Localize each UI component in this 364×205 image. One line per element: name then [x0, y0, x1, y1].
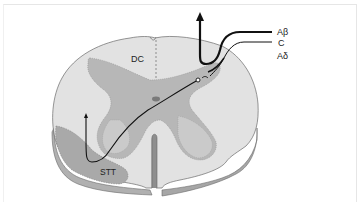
label-adelta: Aδ — [277, 51, 288, 61]
abeta-arrowhead — [196, 12, 204, 21]
synapse-neuron — [196, 78, 200, 82]
spinal-cord-diagram: DC STT Aβ C Aδ — [0, 0, 364, 205]
label-stt: STT — [100, 167, 116, 177]
label-c: C — [278, 38, 285, 48]
label-abeta: Aβ — [277, 27, 288, 37]
label-dc: DC — [131, 54, 144, 64]
central-canal — [152, 97, 160, 102]
ventral-median-fissure — [152, 134, 157, 188]
